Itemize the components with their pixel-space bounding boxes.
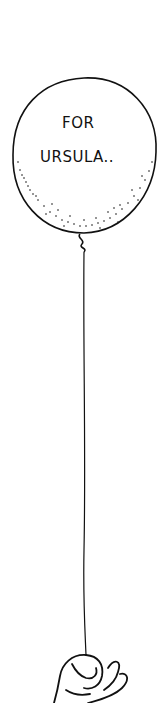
balloon-text-line1: FOR [62, 114, 94, 132]
balloon-shading [17, 161, 153, 229]
balloon-illustration: FOR URSULA.. [0, 0, 168, 703]
hand-icon [54, 655, 127, 703]
balloon-text-line2: URSULA.. [40, 148, 114, 166]
balloon-string [84, 252, 86, 655]
balloon-knot [79, 234, 85, 252]
